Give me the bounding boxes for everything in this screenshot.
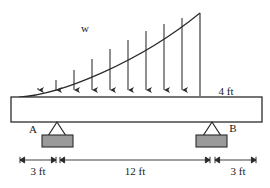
support-b [196,122,227,147]
support-b-label: B [229,122,236,134]
beam-loading-diagram: w 4 ft A B 3 ft 12 ft 3 ft [0,0,270,188]
dimension-label-left: 3 ft [31,165,46,177]
load-arrow-group [38,18,182,90]
support-b-triangle [203,122,221,136]
beam-figure-canvas: w 4 ft A B 3 ft 12 ft 3 ft [0,0,270,188]
beam-body [11,97,262,122]
load-label-w: w [81,22,89,34]
beam-depth-label: 4 ft [219,85,234,97]
support-b-base-block [196,135,227,147]
dimension-label-right: 3 ft [231,165,246,177]
support-a-label: A [29,123,37,135]
dimension-label-mid: 12 ft [125,165,145,177]
support-a [42,122,73,147]
support-a-base-block [42,135,73,147]
support-a-triangle [48,122,66,136]
